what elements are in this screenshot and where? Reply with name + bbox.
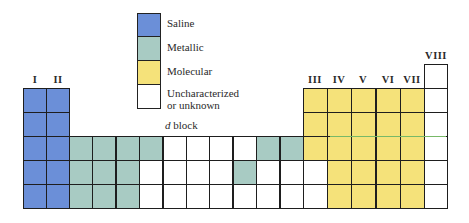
p-block-cell bbox=[351, 112, 376, 137]
d-block-cell bbox=[69, 160, 93, 185]
p-block-cell bbox=[327, 112, 352, 137]
group-label-iii: III bbox=[303, 74, 327, 85]
group-viii-cell bbox=[424, 64, 448, 89]
group-label-viii: VIII bbox=[424, 50, 448, 61]
p-block-cell bbox=[351, 136, 376, 161]
d-block-cell bbox=[256, 184, 280, 209]
p-block-cell bbox=[400, 136, 425, 161]
s-block-cell bbox=[46, 88, 70, 113]
d-block-label: d block bbox=[165, 119, 198, 131]
d-block-cell bbox=[280, 160, 304, 185]
s-block-cell bbox=[46, 184, 70, 209]
d-block-cell bbox=[92, 136, 116, 161]
d-block-cell bbox=[209, 160, 233, 185]
p-block-cell bbox=[400, 160, 425, 185]
saline-swatch bbox=[137, 13, 161, 37]
p-block-cell bbox=[351, 88, 376, 113]
p-block-cell bbox=[327, 160, 352, 185]
p-block-cell bbox=[327, 88, 352, 113]
d-block-cell bbox=[209, 184, 233, 209]
d-block-cell bbox=[233, 184, 257, 209]
d-block-cell bbox=[209, 136, 233, 161]
d-block-cell bbox=[233, 136, 257, 161]
d-block-cell bbox=[69, 184, 93, 209]
legend-label: Metallic bbox=[167, 41, 204, 53]
unknown-swatch bbox=[137, 85, 161, 109]
p-block-cell bbox=[303, 88, 328, 113]
d-block-cell bbox=[139, 136, 163, 161]
group-viii-cell bbox=[424, 160, 448, 185]
group-label-v: V bbox=[351, 74, 375, 85]
d-block-cell bbox=[139, 160, 163, 185]
p-block-cell bbox=[303, 112, 328, 137]
s-block-cell bbox=[23, 112, 47, 137]
group-label-iv: IV bbox=[327, 74, 351, 85]
d-block-cell bbox=[163, 160, 187, 185]
d-block-cell bbox=[163, 184, 187, 209]
d-block-cell bbox=[280, 136, 304, 161]
d-block-cell bbox=[116, 136, 140, 161]
group-viii-cell bbox=[424, 184, 448, 209]
group-viii-cell bbox=[424, 112, 448, 137]
group-viii-cell bbox=[424, 88, 448, 113]
d-block-cell bbox=[186, 136, 210, 161]
group-label-ii: II bbox=[46, 74, 70, 85]
d-block-cell bbox=[116, 160, 140, 185]
d-block-cell bbox=[233, 160, 257, 185]
d-block-label-rest: block bbox=[171, 119, 198, 131]
d-block-cell bbox=[186, 160, 210, 185]
legend-label-line1: Uncharacterized bbox=[167, 87, 239, 99]
s-block-cell bbox=[46, 136, 70, 161]
d-block-cell bbox=[92, 184, 116, 209]
group-label-vii: VII bbox=[400, 74, 424, 85]
legend-label: Saline bbox=[167, 17, 195, 29]
d-block-cell bbox=[69, 136, 93, 161]
p-block-cell bbox=[351, 184, 376, 209]
s-block-cell bbox=[46, 112, 70, 137]
s-block-cell bbox=[46, 160, 70, 185]
p-block-cell bbox=[376, 136, 401, 161]
d-block-cell bbox=[92, 160, 116, 185]
metallic-swatch bbox=[137, 37, 161, 61]
p-block-cell bbox=[303, 136, 328, 161]
d-block-cell bbox=[116, 184, 140, 209]
legend-label: Uncharacterized or unknown bbox=[167, 87, 239, 111]
scan-line-artifact bbox=[330, 136, 446, 137]
p-block-cell bbox=[303, 184, 328, 209]
legend-label: Molecular bbox=[167, 65, 212, 77]
s-block-cell bbox=[23, 88, 47, 113]
s-block-cell bbox=[23, 184, 47, 209]
d-block-cell bbox=[256, 160, 280, 185]
p-block-cell bbox=[376, 184, 401, 209]
molecular-swatch bbox=[137, 61, 161, 85]
d-block-cell bbox=[186, 184, 210, 209]
s-block-cell bbox=[23, 136, 47, 161]
d-block-cell bbox=[163, 136, 187, 161]
p-block-cell bbox=[376, 112, 401, 137]
legend-label-line2: or unknown bbox=[167, 99, 239, 111]
p-block-cell bbox=[303, 160, 328, 185]
p-block-cell bbox=[327, 136, 352, 161]
p-block-cell bbox=[351, 160, 376, 185]
group-label-vi: VI bbox=[376, 74, 400, 85]
p-block-cell bbox=[327, 184, 352, 209]
p-block-cell bbox=[400, 88, 425, 113]
p-block-cell bbox=[376, 88, 401, 113]
group-label-i: I bbox=[23, 74, 47, 85]
p-block-cell bbox=[376, 160, 401, 185]
p-block-cell bbox=[400, 184, 425, 209]
s-block-cell bbox=[23, 160, 47, 185]
group-viii-cell bbox=[424, 136, 448, 161]
d-block-cell bbox=[139, 184, 163, 209]
d-block-cell bbox=[280, 184, 304, 209]
d-block-cell bbox=[256, 136, 280, 161]
p-block-cell bbox=[400, 112, 425, 137]
